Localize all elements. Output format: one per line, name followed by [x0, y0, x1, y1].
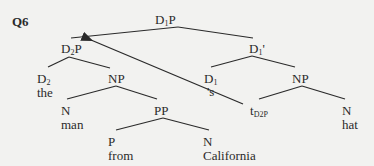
node-np-left: NP — [108, 72, 125, 85]
node-n-man: N — [61, 104, 70, 117]
trace-d2p: tD2P — [250, 104, 268, 121]
node-pp: PP — [154, 104, 168, 117]
word-from: from — [108, 149, 133, 162]
node-d1-bar: D1' — [249, 42, 265, 55]
node-d2: D2 — [37, 72, 50, 85]
tree-branches — [0, 0, 374, 166]
node-n-hat: N — [342, 104, 351, 117]
node-np-right: NP — [292, 72, 309, 85]
node-n-california: N — [203, 135, 212, 148]
word-hat: hat — [342, 118, 358, 131]
word-apostrophe-s: 's — [207, 85, 214, 98]
word-man: man — [61, 118, 83, 131]
node-d1p: D1P — [155, 13, 176, 26]
word-california: California — [203, 149, 256, 162]
node-d2p: D2P — [61, 42, 82, 55]
node-p: P — [108, 135, 115, 148]
question-label: Q6 — [12, 15, 29, 28]
word-the: the — [37, 86, 53, 99]
